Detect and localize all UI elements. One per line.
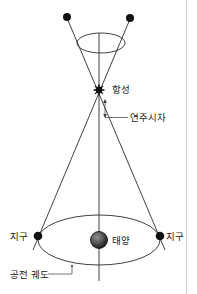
sun-label: 태양 (112, 235, 130, 246)
earth-right-dot (156, 232, 165, 241)
diagram-canvas: 항성 연주시차 지구 지구 태양 공전 궤도 (0, 0, 197, 294)
earth-left-dot (34, 232, 43, 241)
parallax-label: 연주시차 (130, 112, 166, 123)
star-icon (94, 85, 105, 96)
orbit-label: 공전 궤도 (10, 269, 49, 280)
background-star-right-dot (126, 14, 134, 22)
earth-left-label: 지구 (10, 231, 28, 242)
star-label: 항성 (112, 84, 130, 95)
figure-background (0, 0, 197, 294)
stellar-parallax-figure: 항성 연주시차 지구 지구 태양 공전 궤도 (0, 0, 197, 294)
background-star-left-dot (63, 13, 71, 21)
earth-right-label: 지구 (166, 231, 184, 242)
sun-sphere-icon (91, 232, 108, 249)
